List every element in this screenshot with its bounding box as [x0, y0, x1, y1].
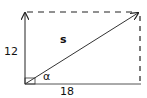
vector-diagram: 12 s α 18 — [0, 0, 147, 98]
angle-label: α — [43, 70, 50, 83]
horizontal-side-label: 18 — [60, 85, 74, 98]
hypotenuse-label: s — [60, 33, 67, 46]
vertical-side-label: 12 — [4, 45, 18, 58]
resultant-vector — [25, 13, 138, 84]
